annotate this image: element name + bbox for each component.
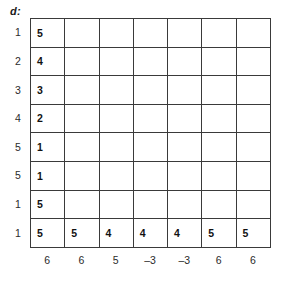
matrix-cell xyxy=(65,190,99,219)
matrix-cell xyxy=(99,190,133,219)
matrix-cell xyxy=(202,161,236,190)
matrix-cell xyxy=(236,161,270,190)
matrix-row: 5 xyxy=(31,190,271,219)
matrix-cell xyxy=(202,47,236,76)
matrix-cell xyxy=(99,76,133,105)
matrix-cell xyxy=(65,104,99,133)
matrix-cell: 5 xyxy=(31,190,65,219)
matrix-cell: 1 xyxy=(31,161,65,190)
matrix-cell xyxy=(236,133,270,162)
matrix-cell xyxy=(202,104,236,133)
row-label: 1 xyxy=(10,27,26,38)
matrix-cell: 5 xyxy=(236,219,270,248)
matrix-cell: 5 xyxy=(65,219,99,248)
column-label: 6 xyxy=(236,255,270,266)
matrix-cell xyxy=(99,47,133,76)
matrix-cell: 2 xyxy=(31,104,65,133)
matrix-cell: 4 xyxy=(133,219,167,248)
matrix-cell-value: 5 xyxy=(31,28,64,39)
matrix-cell xyxy=(202,133,236,162)
matrix-cell: 3 xyxy=(31,76,65,105)
matrix-cell xyxy=(133,190,167,219)
matrix-cell: 5 xyxy=(31,219,65,248)
matrix-cell: 4 xyxy=(168,219,202,248)
matrix-cell xyxy=(168,133,202,162)
matrix-cell-value: 1 xyxy=(31,171,64,182)
column-label: 6 xyxy=(201,255,235,266)
matrix-table: 54321155544455 xyxy=(30,18,271,248)
matrix-row: 3 xyxy=(31,76,271,105)
matrix-cell xyxy=(99,104,133,133)
matrix-cell xyxy=(65,76,99,105)
matrix-cell-value: 5 xyxy=(237,228,270,239)
row-label: 1 xyxy=(10,228,26,239)
column-label: –3 xyxy=(133,255,167,266)
matrix-cell: 4 xyxy=(99,219,133,248)
matrix-cell: 5 xyxy=(31,19,65,48)
row-label: 4 xyxy=(10,113,26,124)
matrix-cell xyxy=(133,133,167,162)
matrix-cell-value: 3 xyxy=(31,85,64,96)
column-label: 6 xyxy=(64,255,98,266)
matrix-cell xyxy=(65,19,99,48)
row-label: 2 xyxy=(10,56,26,67)
matrix-cell xyxy=(133,104,167,133)
matrix-cell xyxy=(133,76,167,105)
matrix-cell xyxy=(236,104,270,133)
matrix-cell-value: 1 xyxy=(31,142,64,153)
matrix-cell xyxy=(99,161,133,190)
row-label: 5 xyxy=(10,170,26,181)
matrix-row: 1 xyxy=(31,133,271,162)
matrix-cell xyxy=(202,76,236,105)
matrix-cell xyxy=(168,161,202,190)
matrix-row: 5544455 xyxy=(31,219,271,248)
matrix-cell xyxy=(65,133,99,162)
matrix-grid: 54321155544455 xyxy=(30,18,270,247)
matrix-cell xyxy=(202,190,236,219)
matrix-cell xyxy=(99,19,133,48)
matrix-cell-value: 4 xyxy=(100,228,133,239)
row-label: 1 xyxy=(10,199,26,210)
matrix-cell: 4 xyxy=(31,47,65,76)
matrix-cell xyxy=(133,47,167,76)
matrix-cell xyxy=(236,19,270,48)
matrix-cell xyxy=(65,161,99,190)
matrix-cell xyxy=(236,190,270,219)
matrix-row: 5 xyxy=(31,19,271,48)
matrix-cell xyxy=(236,76,270,105)
matrix-cell: 5 xyxy=(202,219,236,248)
matrix-cell xyxy=(65,47,99,76)
matrix-cell xyxy=(168,190,202,219)
matrix-cell xyxy=(168,19,202,48)
matrix-cell xyxy=(133,161,167,190)
matrix-cell xyxy=(202,19,236,48)
matrix-cell: 1 xyxy=(31,133,65,162)
column-label: –3 xyxy=(167,255,201,266)
matrix-cell-value: 2 xyxy=(31,113,64,124)
matrix-cell-value: 4 xyxy=(168,228,201,239)
d-caption-label: d: xyxy=(10,6,21,17)
matrix-body: 54321155544455 xyxy=(31,19,271,248)
matrix-cell-value: 5 xyxy=(65,228,98,239)
matrix-cell-value: 4 xyxy=(31,56,64,67)
column-label: 5 xyxy=(99,255,133,266)
matrix-cell xyxy=(133,19,167,48)
row-label: 5 xyxy=(10,142,26,153)
matrix-cell xyxy=(168,76,202,105)
matrix-cell xyxy=(168,47,202,76)
matrix-cell xyxy=(168,104,202,133)
column-label: 6 xyxy=(30,255,64,266)
matrix-row: 1 xyxy=(31,161,271,190)
matrix-cell-value: 5 xyxy=(31,199,64,210)
matrix-row: 2 xyxy=(31,104,271,133)
matrix-cell-value: 5 xyxy=(31,228,64,239)
matrix-cell-value: 4 xyxy=(134,228,167,239)
matrix-figure: d: 12345511 54321155544455 665–3–366 xyxy=(0,0,282,292)
matrix-cell xyxy=(99,133,133,162)
matrix-cell-value: 5 xyxy=(202,228,235,239)
row-label: 3 xyxy=(10,85,26,96)
matrix-cell xyxy=(236,47,270,76)
matrix-row: 4 xyxy=(31,47,271,76)
